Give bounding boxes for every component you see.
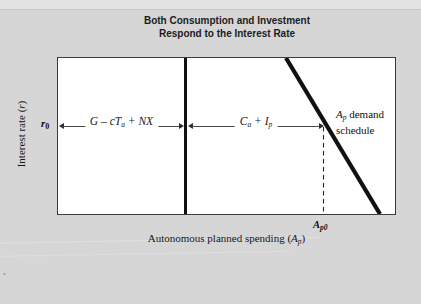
y-axis-tick-label-r0: r0 — [41, 117, 49, 131]
x-axis-title: Autonomous planned spending (Ap) — [57, 232, 396, 246]
figure-title-line-1: Both Consumption and Investment — [57, 15, 397, 28]
margin-artifact: • — [3, 270, 6, 279]
figure-title: Both Consumption and Investment Respond … — [57, 15, 397, 40]
y-axis-title-suffix: ) — [15, 101, 27, 105]
x-axis-title-prefix: Autonomous planned spending ( — [148, 232, 291, 244]
scan-artifact-streak-secondary — [0, 251, 290, 257]
page-edge-line — [0, 9, 421, 10]
bracket-2-label-subscript-2: p — [269, 120, 273, 129]
plot-area: G – cTa + NX Ca + Ip — [57, 57, 396, 215]
ap0-variable: A — [313, 219, 320, 230]
x-axis-tick-label-ap0: Ap0 — [313, 219, 328, 232]
bracket-2-label: Ca + Ip — [235, 115, 278, 129]
r0-subscript: 0 — [45, 122, 49, 131]
bracket-1-label-main: G – cT — [90, 115, 121, 127]
annotation-line-2: schedule — [336, 124, 384, 136]
bracket-2-label-main: C — [240, 115, 248, 127]
x-axis-title-variable: A — [291, 232, 298, 244]
bracket-consumption-investment: Ca + Ip — [188, 121, 324, 132]
bracket-2-right-arrowhead — [319, 123, 324, 129]
bracket-2-label-tail: + I — [251, 115, 268, 127]
x-axis-title-suffix: ) — [302, 232, 306, 244]
ap0-drop-line — [58, 58, 395, 214]
annotation-curve-variable: A — [336, 108, 343, 120]
bracket-1-label: G – cTa + NX — [85, 115, 158, 129]
bracket-1-label-tail: + NX — [125, 115, 153, 127]
demand-schedule-annotation: Ap demandschedule — [336, 108, 384, 136]
ap0-subscript: p0 — [320, 223, 328, 232]
economics-figure: • Both Consumption and Investment Respon… — [0, 0, 421, 304]
bracket-government-taxes-netexports: G – cTa + NX — [59, 121, 184, 132]
bracket-1-right-arrowhead — [179, 123, 184, 129]
y-axis-title: Interest rate (r) — [15, 74, 27, 194]
annotation-line-1-tail: demand — [346, 108, 384, 120]
figure-title-line-2: Respond to the Interest Rate — [57, 28, 397, 41]
y-axis-title-prefix: Interest rate ( — [15, 109, 27, 168]
y-axis-title-variable: r — [15, 104, 27, 108]
